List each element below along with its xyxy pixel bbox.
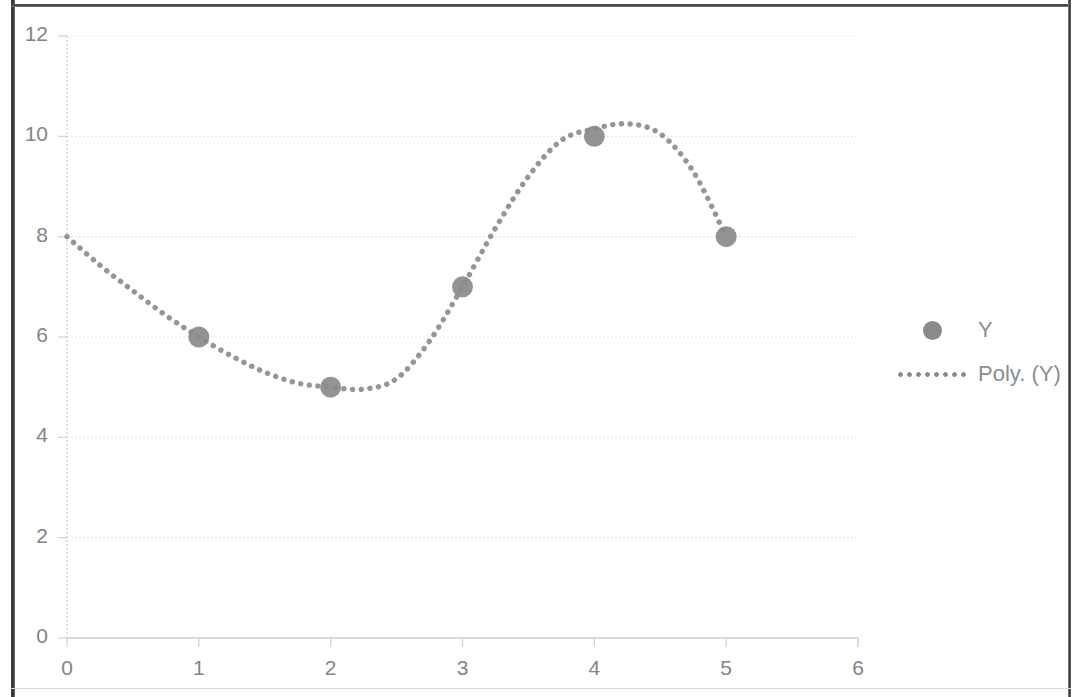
data-point-markers	[188, 126, 736, 398]
x-tick-label: 5	[701, 656, 751, 680]
y-tick-label: 10	[0, 122, 48, 146]
scan-border-top	[11, 4, 1071, 7]
x-tick-label: 1	[174, 656, 224, 680]
axis-lines-group	[67, 36, 858, 647]
poly-trendline	[67, 124, 726, 390]
y-tick-marks-group	[58, 36, 67, 638]
legend-entry-y[interactable]: Y	[896, 308, 1076, 352]
chart-legend: Y Poly. (Y)	[896, 308, 1076, 396]
y-tick-label: 2	[0, 524, 48, 548]
x-tick-label: 3	[438, 656, 488, 680]
legend-label-y: Y	[968, 317, 993, 343]
scanned-chart-page: 024681012 0123456 Y Poly. (Y)	[0, 0, 1081, 697]
y-tick-label: 6	[0, 323, 48, 347]
gridlines-group	[67, 36, 858, 638]
x-tick-label: 4	[569, 656, 619, 680]
x-tick-label: 0	[42, 656, 92, 680]
chart-area: 024681012 0123456 Y Poly. (Y)	[16, 8, 1066, 688]
y-tick-label: 12	[0, 22, 48, 46]
x-tick-label: 2	[306, 656, 356, 680]
x-tick-marks-group	[67, 638, 858, 647]
legend-entry-poly[interactable]: Poly. (Y)	[896, 352, 1076, 396]
y-tick-label: 4	[0, 423, 48, 447]
legend-dotted-line-icon	[896, 372, 968, 377]
scan-border-left	[11, 0, 15, 697]
y-tick-label: 0	[0, 624, 48, 648]
y-tick-label: 8	[0, 223, 48, 247]
x-tick-label: 6	[833, 656, 883, 680]
scan-border-bottom	[11, 688, 1071, 689]
legend-marker-dot-icon	[896, 321, 968, 340]
legend-label-poly: Poly. (Y)	[968, 361, 1061, 387]
